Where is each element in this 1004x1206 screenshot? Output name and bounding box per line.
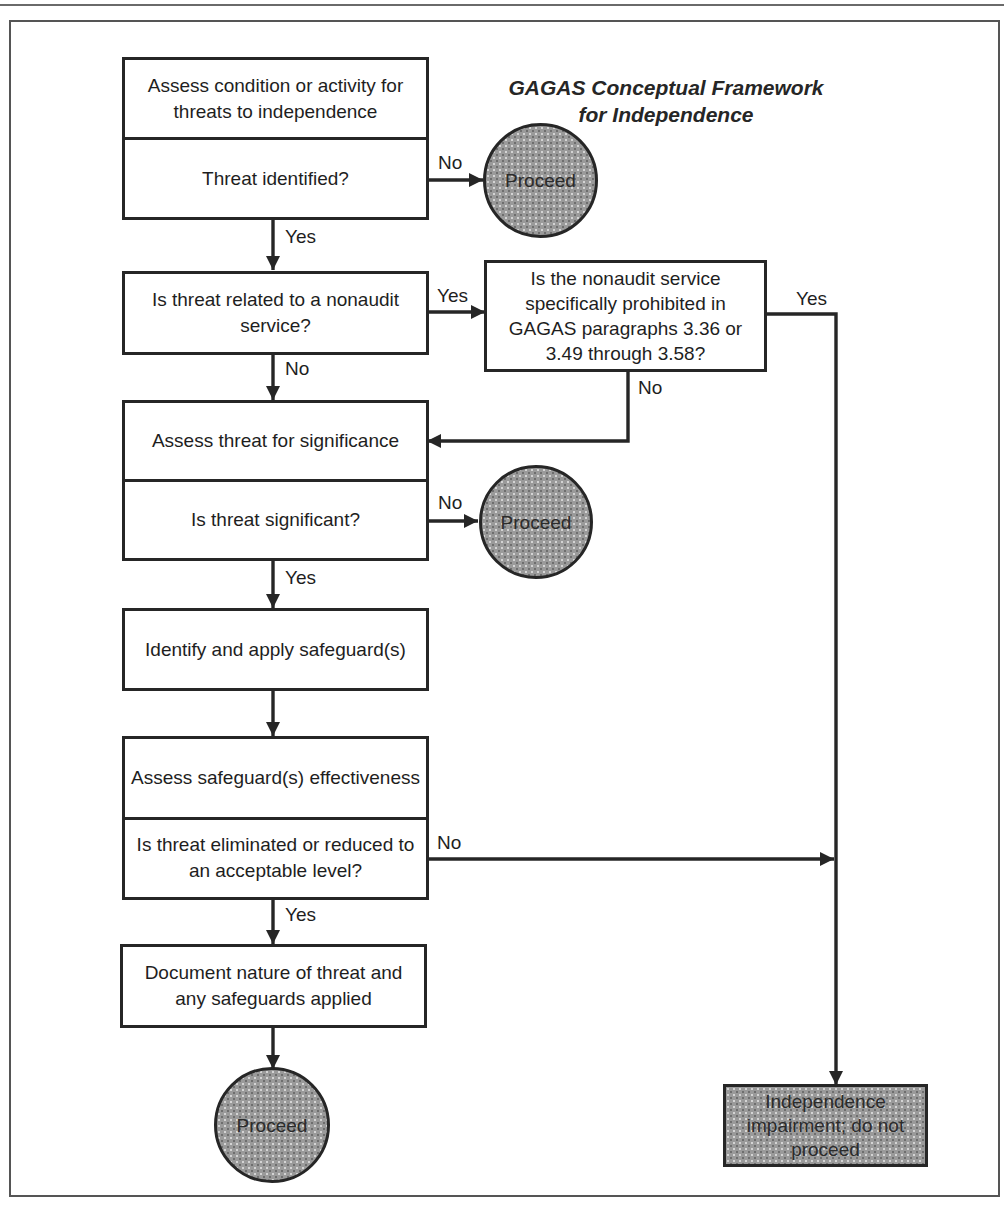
node-document-text: Document nature of threat and any safegu… xyxy=(123,947,424,1025)
terminal-proceed-1: Proceed xyxy=(483,123,598,238)
node-assess-significance-action: Assess threat for significance xyxy=(125,403,426,479)
terminal-proceed-2-label: Proceed xyxy=(501,510,572,535)
arrow-prohibited-no xyxy=(427,370,628,441)
node-nonaudit-related: Is threat related to a nonaudit service? xyxy=(122,271,429,355)
label-threat-identified-yes: Yes xyxy=(285,226,316,248)
diagram-title: GAGAS Conceptual Framework for Independe… xyxy=(476,74,856,128)
label-prohibited-no: No xyxy=(638,377,662,399)
node-eliminated-decision: Is threat eliminated or reduced to an ac… xyxy=(125,817,426,898)
terminal-proceed-2: Proceed xyxy=(479,465,593,579)
label-threat-identified-no: No xyxy=(438,152,462,174)
node-assess-significance: Assess threat for significance Is threat… xyxy=(122,400,429,561)
label-significant-no: No xyxy=(438,492,462,514)
node-assess-condition: Assess condition or activity for threats… xyxy=(122,57,429,220)
node-prohibited: Is the nonaudit service specifically pro… xyxy=(484,260,767,372)
node-document: Document nature of threat and any safegu… xyxy=(120,944,427,1028)
label-nonaudit-yes: Yes xyxy=(437,285,468,307)
node-assess-safeguards-action: Assess safeguard(s) effectiveness xyxy=(125,739,426,817)
node-assess-safeguards: Assess safeguard(s) effectiveness Is thr… xyxy=(122,736,429,900)
label-prohibited-yes: Yes xyxy=(796,288,827,310)
label-nonaudit-no: No xyxy=(285,358,309,380)
node-nonaudit-related-text: Is threat related to a nonaudit service? xyxy=(125,274,426,352)
label-significant-yes: Yes xyxy=(285,567,316,589)
node-significant-decision: Is threat significant? xyxy=(125,479,426,558)
label-eliminated-yes: Yes xyxy=(285,904,316,926)
terminal-impairment: Independence impairment; do not proceed xyxy=(723,1084,928,1167)
node-assess-condition-action: Assess condition or activity for threats… xyxy=(125,60,426,137)
terminal-proceed-3-label: Proceed xyxy=(237,1113,308,1138)
diagram-title-line-1: GAGAS Conceptual Framework xyxy=(476,74,856,101)
node-identify-safeguards: Identify and apply safeguard(s) xyxy=(122,608,429,691)
terminal-proceed-1-label: Proceed xyxy=(505,168,576,193)
node-identify-safeguards-text: Identify and apply safeguard(s) xyxy=(125,611,426,688)
terminal-proceed-3: Proceed xyxy=(214,1067,330,1183)
arrow-prohibited-yes xyxy=(765,314,836,1085)
label-eliminated-no: No xyxy=(437,832,461,854)
terminal-impairment-label: Independence impairment; do not proceed xyxy=(732,1090,919,1162)
node-prohibited-text: Is the nonaudit service specifically pro… xyxy=(487,263,764,369)
node-threat-identified-decision: Threat identified? xyxy=(125,137,426,217)
